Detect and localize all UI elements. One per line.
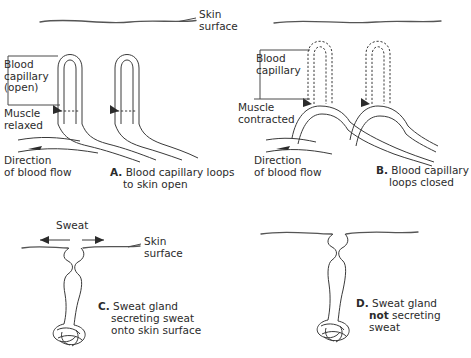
feed-vessel-2-upper-a <box>115 124 182 160</box>
blood-capillary-label-a: Blood capillary (open) <box>4 59 49 94</box>
skin-surface-label-line2-c: surface <box>144 247 183 259</box>
feed-vessel-2-lower-a <box>139 124 198 158</box>
capillary-loop-1-inner-b <box>314 47 326 104</box>
trunk-vessel-bottom-a <box>18 149 98 153</box>
blood-flow-arrow-b <box>276 146 290 150</box>
panel-c-caption-line3: onto skin surface <box>98 325 201 337</box>
panel-c-letter: C. <box>98 300 110 312</box>
panel-d-caption-line2: not secreting <box>356 310 441 322</box>
blood-flow-arrow-a <box>28 146 42 150</box>
capillary-loop-1-outer-b <box>308 41 332 104</box>
blood-flow-direction-label-a: Direction of blood flow <box>4 155 72 178</box>
sweat-duct-right-wall-c <box>74 248 84 325</box>
blood-capillary-label-line3-a: (open) <box>4 81 38 93</box>
sweat-duct-left-wall-c <box>64 248 73 324</box>
muscle-relaxed-label-line2-a: relaxed <box>4 119 43 131</box>
blood-flow-direction-line2-b: of blood flow <box>254 166 322 178</box>
blood-flow-direction-line1-b: Direction <box>254 154 301 166</box>
capillary-loop-1-inner-a <box>64 60 76 124</box>
panel-d-caption: D. Sweat gland not secreting sweat <box>356 298 441 333</box>
blood-flow-direction-label-b: Direction of blood flow <box>254 155 322 178</box>
sweat-gland-coil-c <box>53 324 85 346</box>
blood-capillary-label-line1-a: Blood <box>4 58 34 70</box>
blood-capillary-label-line2-b: capillary <box>256 64 301 76</box>
muscle-contracted-label-b: Muscle contracted <box>238 102 295 125</box>
skin-surface-label-line1-c: Skin <box>144 235 166 247</box>
blood-capillary-label-line1-b: Blood <box>256 52 286 64</box>
skin-surface-label-line1-a: Skin <box>199 8 221 20</box>
skin-surface-label-c: Skin surface <box>144 236 183 259</box>
capillary-loop-2-outer-a <box>115 55 139 125</box>
panel-a-caption-line1: Blood capillary loops <box>126 166 235 178</box>
panel-c-caption-line2: secreting sweat <box>98 313 201 325</box>
sweat-duct-right-wall-d <box>338 234 348 321</box>
blood-capillary-label-b: Blood capillary <box>256 53 301 76</box>
sweat-gland-coil-d <box>317 320 349 342</box>
panel-d-caption-mid: secreting <box>389 309 441 321</box>
panel-b-caption-line1: Blood capillary <box>391 164 469 176</box>
capillary-loop-2-outer-b <box>366 41 390 104</box>
sweat-label-c: Sweat <box>56 220 88 232</box>
sweat-duct-left-wall-d <box>328 234 337 320</box>
skin-surface-line-d-left <box>261 232 332 234</box>
panel-c-sweat-gland-secreting: Sweat Skin surface C. Sweat gland secret… <box>0 198 236 358</box>
panel-b-caption: B. Blood capillary loops closed <box>376 165 469 189</box>
skin-surface-line-c-left <box>22 247 68 248</box>
sweat-label-text-c: Sweat <box>56 219 88 231</box>
panel-d-caption-line1: Sweat gland <box>372 297 437 309</box>
panel-b-letter: B. <box>376 164 388 176</box>
blood-capillary-label-line2-a: capillary <box>4 70 49 82</box>
skin-surface-line-b <box>274 21 441 23</box>
panel-d-caption-bold-not: not <box>369 309 389 321</box>
capillary-loop-2-inner-a <box>121 60 133 124</box>
muscle-relaxed-label-a: Muscle relaxed <box>4 108 43 131</box>
skin-surface-line-d-right <box>346 232 418 234</box>
muscle-hump-1b-b <box>298 114 348 144</box>
feed-vessel-2-upper-b <box>408 126 438 146</box>
blood-flow-direction-line1-a: Direction <box>4 154 51 166</box>
sweat-arrow-head-right-c <box>95 236 104 244</box>
trunk-vessel-top-a <box>18 137 80 141</box>
panel-c-caption: C. Sweat gland secreting sweat onto skin… <box>98 301 201 336</box>
panel-d-diagram <box>236 198 471 358</box>
panel-d-sweat-gland-not-secreting: D. Sweat gland not secreting sweat <box>236 198 471 358</box>
panel-c-caption-line1: Sweat gland <box>113 300 178 312</box>
trunk-vessel-top-b <box>266 138 316 142</box>
blood-flow-direction-line2-a: of blood flow <box>4 166 72 178</box>
panel-d-caption-line3: sweat <box>356 322 441 334</box>
panel-a-caption: A. Blood capillary loops to skin open <box>110 167 234 191</box>
skin-surface-label-a: Skin surface <box>199 9 238 32</box>
skin-surface-label-line2-a: surface <box>199 20 238 32</box>
panel-a-caption-line2: to skin open <box>110 179 234 191</box>
muscle-contracted-label-line1-b: Muscle <box>238 101 274 113</box>
sweat-arrow-head-left-c <box>40 236 49 244</box>
muscle-relaxed-label-line1-a: Muscle <box>4 107 40 119</box>
panel-a-capillary-loops-open: Skin surface Blood capillary (open) Musc… <box>0 0 236 198</box>
panel-d-letter: D. <box>356 297 369 309</box>
skin-surface-line-a <box>40 20 196 22</box>
capillary-loop-2-inner-b <box>372 47 384 104</box>
panel-a-letter: A. <box>110 166 122 178</box>
capillary-loop-1-outer-a <box>58 55 82 125</box>
panel-b-capillary-loops-closed: Blood capillary Muscle contracted Direct… <box>236 0 471 198</box>
muscle-contracted-label-line2-b: contracted <box>238 113 295 125</box>
panel-b-caption-line2: loops closed <box>376 177 469 189</box>
